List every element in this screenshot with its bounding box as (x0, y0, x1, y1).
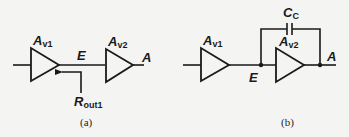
node-e-label-a: E (77, 48, 86, 63)
panel-a: Av1 E Av2 A Rout1 (a) (13, 33, 151, 129)
amplifier-av1-a (31, 48, 59, 81)
cc-label: CC (283, 5, 299, 21)
caption-b: (b) (281, 116, 294, 129)
amp1-label-a: Av1 (32, 33, 52, 49)
amp2-label-b: Av2 (278, 34, 298, 50)
rout1-label: Rout1 (74, 94, 102, 110)
panel-b: Av1 E Av2 A CC (b) (183, 5, 336, 129)
amplifier-av2-a (106, 49, 133, 82)
rout1-arrow-icon (62, 72, 81, 93)
amplifier-av1-b (201, 48, 229, 81)
two-stage-amplifier-diagram: Av1 E Av2 A Rout1 (a) Av1 E Av2 A (0, 0, 349, 137)
output-node-label-a: A (141, 50, 151, 65)
caption-a: (a) (80, 116, 93, 129)
amplifier-av2-b (276, 48, 304, 82)
output-node-label-b: A (326, 49, 336, 64)
amp2-label-a: Av2 (107, 34, 127, 50)
node-e-label-b: E (249, 70, 258, 85)
amp1-label-b: Av1 (202, 33, 222, 49)
